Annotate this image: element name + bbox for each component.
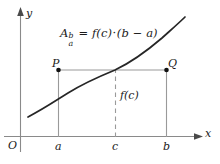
- point-label-q: Q: [168, 58, 177, 69]
- tick-label-a: a: [55, 141, 62, 152]
- area-formula: Aba = f(c)·(b − a): [60, 28, 158, 40]
- point-label-p: P: [52, 58, 59, 69]
- y-axis-arrow-icon: [17, 7, 24, 16]
- y-axis: [17, 7, 24, 152]
- formula-equals-wrap: =: [75, 26, 92, 40]
- x-axis: [4, 133, 203, 140]
- height-annotation-fc: f(c): [120, 90, 139, 101]
- y-axis-label: y: [26, 8, 32, 19]
- formula-factor: (b − a): [117, 26, 158, 40]
- formula-symbol: A: [60, 26, 68, 40]
- diagram-svg: [0, 0, 220, 164]
- figure-canvas: y x O a c b P Q f(c) Aba = f(c)·(b − a): [0, 0, 220, 164]
- tick-label-b: b: [163, 141, 170, 152]
- x-axis-arrow-icon: [194, 133, 203, 140]
- formula-equals: =: [78, 26, 88, 40]
- formula-subscript: a: [68, 40, 73, 48]
- formula-function: f(c): [92, 26, 112, 40]
- tick-label-c: c: [112, 141, 118, 152]
- origin-label: O: [8, 140, 17, 151]
- x-axis-label: x: [205, 128, 211, 139]
